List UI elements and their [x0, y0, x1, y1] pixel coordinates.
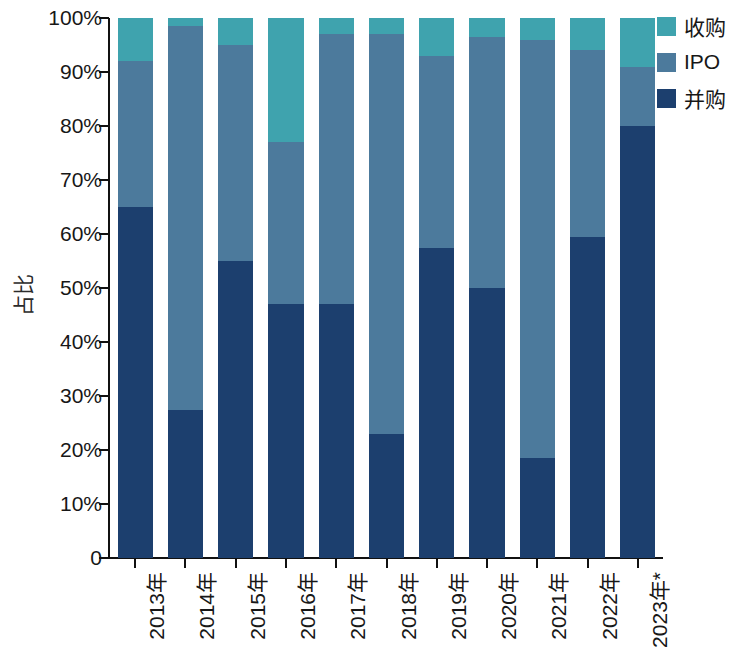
y-axis-tick-mark — [99, 233, 109, 235]
x-axis-tick-label: 2021年 — [548, 572, 570, 651]
legend-item[interactable]: 并购 — [657, 82, 735, 114]
x-axis-tick-mark — [285, 559, 287, 568]
x-axis-tick-mark — [386, 559, 388, 568]
x-axis-tick-mark — [235, 559, 237, 568]
y-axis-tick-mark — [99, 287, 109, 289]
x-axis-tick-mark — [184, 559, 186, 568]
x-axis-tick-mark — [134, 559, 136, 568]
y-axis-tick-mark — [99, 557, 109, 559]
x-axis-tick-label: 2017年 — [347, 572, 369, 651]
x-axis-tick-label: 2018年 — [398, 572, 420, 651]
x-axis-tick-label: 2019年 — [448, 572, 470, 651]
y-axis-tick-mark — [99, 125, 109, 127]
y-axis-tick-mark — [99, 341, 109, 343]
x-axis-tick-mark — [335, 559, 337, 568]
x-axis-tick-label: 2015年 — [247, 572, 269, 651]
legend-item-label: 收购 — [684, 11, 726, 41]
x-axis-tick-label: 2013年 — [146, 572, 168, 651]
x-axis-tick-mark — [587, 559, 589, 568]
y-axis-tick-mark — [99, 71, 109, 73]
x-axis-tick-mark — [486, 559, 488, 568]
x-axis-tick-label: 2023年* — [649, 572, 671, 651]
y-axis-tick-mark — [99, 179, 109, 181]
chart-legend: 收购IPO并购 — [657, 10, 735, 118]
x-axis-tick-label: 2020年 — [498, 572, 520, 651]
x-axis-tick-mark — [436, 559, 438, 568]
y-axis-tick-mark — [99, 395, 109, 397]
y-axis-tick-mark — [99, 503, 109, 505]
y-axis-tick-mark — [99, 17, 109, 19]
legend-color-swatch-icon — [657, 17, 676, 36]
legend-color-swatch-icon — [657, 89, 676, 108]
legend-item-label: IPO — [684, 50, 720, 74]
x-axis-tick-label: 2016年 — [297, 572, 319, 651]
x-axis-tick-mark — [637, 559, 639, 568]
legend-item[interactable]: 收购 — [657, 10, 735, 42]
legend-color-swatch-icon — [657, 53, 676, 72]
x-axis-tick-label: 2022年 — [599, 572, 621, 651]
legend-item-label: 并购 — [684, 83, 726, 113]
x-axis-tick-label: 2014年 — [196, 572, 218, 651]
legend-item[interactable]: IPO — [657, 46, 735, 78]
x-axis-tick-mark — [536, 559, 538, 568]
y-axis-tick-mark — [99, 449, 109, 451]
